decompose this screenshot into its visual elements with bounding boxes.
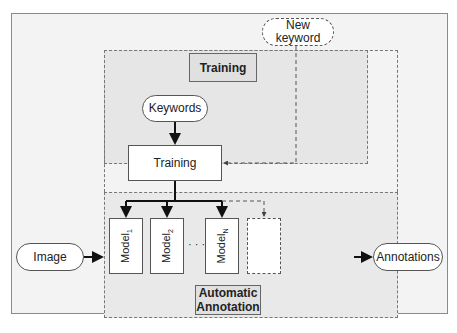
edges-layer: [0, 0, 457, 333]
